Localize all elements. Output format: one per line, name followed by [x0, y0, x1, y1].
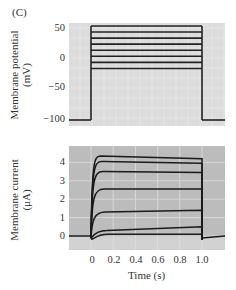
time-tick-0: 0	[80, 254, 104, 265]
time-tick-1.0: 1.0	[190, 254, 214, 265]
current-tick-4: 4	[35, 156, 65, 167]
time-tick-0.8: 0.8	[168, 254, 192, 265]
current-tick-1: 1	[35, 212, 65, 223]
time-axis-label: Time (s)	[128, 269, 165, 281]
current-tick-3: 3	[35, 175, 65, 186]
current-plot-area	[0, 0, 236, 290]
current-tick-0: 0	[35, 230, 65, 241]
current-y-axis-label: Membrane current (μA)	[8, 150, 32, 250]
time-tick-0.4: 0.4	[124, 254, 148, 265]
time-tick-0.2: 0.2	[102, 254, 126, 265]
current-tick-2: 2	[35, 193, 65, 204]
time-tick-0.6: 0.6	[146, 254, 170, 265]
